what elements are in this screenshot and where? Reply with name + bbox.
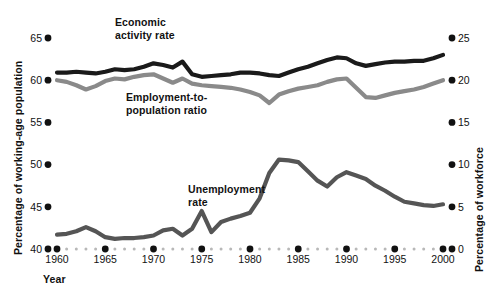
- x-axis-minor-dot: [374, 248, 377, 251]
- x-axis-major-dot: [198, 246, 205, 253]
- x-axis-minor-dot: [239, 248, 242, 251]
- x-axis-minor-dot: [84, 248, 87, 251]
- x-axis-minor-dot: [335, 248, 338, 251]
- left-axis-tick-label: 40: [30, 243, 42, 255]
- x-axis-minor-dot: [326, 248, 329, 251]
- series-annotation: Economicactivity rate: [115, 16, 175, 40]
- x-axis-minor-dot: [181, 248, 184, 251]
- left-axis-tick-label: 65: [30, 32, 42, 44]
- left-axis-tick-label: 55: [30, 116, 42, 128]
- x-axis-dotted-baseline: [54, 246, 447, 253]
- right-axis-tick-dot: [449, 119, 456, 126]
- right-axis-tick-dot: [449, 35, 456, 42]
- left-axis-tick-dot: [45, 246, 52, 253]
- x-axis-major-dot: [295, 246, 302, 253]
- x-axis-minor-dot: [162, 248, 165, 251]
- x-axis-minor-dot: [268, 248, 271, 251]
- series-lines: [57, 55, 443, 239]
- x-axis-minor-dot: [258, 248, 261, 251]
- x-axis-tick-label: 1980: [238, 253, 262, 265]
- left-axis-tick-dot: [45, 161, 52, 168]
- left-axis-tick-label: 50: [30, 158, 42, 170]
- x-axis-minor-dot: [191, 248, 194, 251]
- x-axis-title: Year: [43, 273, 66, 285]
- x-axis-tick-label: 1975: [190, 253, 214, 265]
- right-axis-tick-label: 15: [458, 116, 470, 128]
- x-axis-tick-label: 1970: [142, 253, 166, 265]
- x-axis-tick-label: 1965: [94, 253, 118, 265]
- left-axis-tick-dot: [45, 77, 52, 84]
- line-chart: 404550556065 0510152025 1960196519701975…: [0, 0, 493, 293]
- series-annotation-line: population ratio: [126, 104, 207, 116]
- x-axis-tick-label: 1995: [383, 253, 407, 265]
- x-axis-major-dot: [247, 246, 254, 253]
- series-line-employment-to-population-ratio: [57, 74, 443, 103]
- right-axis-tick-dot: [449, 77, 456, 84]
- right-axis-tick-dot: [449, 161, 456, 168]
- x-axis-tick-labels: 196019651970197519801985199019952000: [45, 253, 455, 265]
- x-axis-minor-dot: [403, 248, 406, 251]
- x-axis-tick-label: 2000: [431, 253, 455, 265]
- x-axis-minor-dot: [355, 248, 358, 251]
- series-annotation-line: activity rate: [115, 29, 175, 41]
- right-axis-ticks: 0510152025: [449, 32, 470, 255]
- right-axis-tick-label: 20: [458, 74, 470, 86]
- series-annotation-line: Economic: [115, 16, 166, 28]
- x-axis-minor-dot: [75, 248, 78, 251]
- x-axis-minor-dot: [123, 248, 126, 251]
- x-axis-minor-dot: [306, 248, 309, 251]
- x-axis-major-dot: [54, 246, 61, 253]
- series-line-unemployment-rate: [57, 160, 443, 239]
- x-axis-major-dot: [391, 246, 398, 253]
- x-axis-minor-dot: [133, 248, 136, 251]
- x-axis-minor-dot: [220, 248, 223, 251]
- left-axis-tick-label: 60: [30, 74, 42, 86]
- x-axis-minor-dot: [277, 248, 280, 251]
- x-axis-minor-dot: [65, 248, 68, 251]
- y-axis-title: Percentage of working-age population: [12, 61, 24, 255]
- series-annotations: Economicactivity rateEmployment-to-popul…: [115, 16, 265, 207]
- x-axis-minor-dot: [413, 248, 416, 251]
- x-axis-minor-dot: [142, 248, 145, 251]
- x-axis-minor-dot: [229, 248, 232, 251]
- right-axis-tick-label: 5: [458, 201, 464, 213]
- x-axis-minor-dot: [384, 248, 387, 251]
- x-axis-minor-dot: [316, 248, 319, 251]
- x-axis-minor-dot: [171, 248, 174, 251]
- x-axis-major-dot: [150, 246, 157, 253]
- chart-container: 404550556065 0510152025 1960196519701975…: [0, 0, 493, 293]
- series-annotation-line: rate: [188, 196, 208, 208]
- x-axis-major-dot: [102, 246, 109, 253]
- left-axis-tick-dot: [45, 35, 52, 42]
- series-annotation-line: Employment-to-: [126, 91, 208, 103]
- x-axis-minor-dot: [422, 248, 425, 251]
- left-axis-ticks: 404550556065: [30, 32, 51, 255]
- right-axis-tick-dot: [449, 246, 456, 253]
- right-axis-tick-label: 25: [458, 32, 470, 44]
- y2-axis-title: Percentage of workforce: [473, 147, 485, 272]
- x-axis-major-dot: [343, 246, 350, 253]
- right-axis-tick-label: 0: [458, 243, 464, 255]
- x-axis-minor-dot: [287, 248, 290, 251]
- right-axis-tick-label: 10: [458, 158, 470, 170]
- x-axis-minor-dot: [210, 248, 213, 251]
- right-axis-tick-dot: [449, 203, 456, 210]
- x-axis-minor-dot: [364, 248, 367, 251]
- left-axis-tick-dot: [45, 119, 52, 126]
- series-annotation-line: Unemployment: [188, 183, 265, 195]
- left-axis-tick-label: 45: [30, 201, 42, 213]
- x-axis-major-dot: [440, 246, 447, 253]
- x-axis-tick-label: 1985: [287, 253, 311, 265]
- x-axis-tick-label: 1990: [335, 253, 359, 265]
- left-axis-tick-dot: [45, 203, 52, 210]
- x-axis-minor-dot: [113, 248, 116, 251]
- series-line-economic-activity-rate: [57, 55, 443, 77]
- series-annotation: Employment-to-population ratio: [126, 91, 208, 115]
- x-axis-tick-label: 1960: [45, 253, 69, 265]
- x-axis-minor-dot: [94, 248, 97, 251]
- x-axis-minor-dot: [432, 248, 435, 251]
